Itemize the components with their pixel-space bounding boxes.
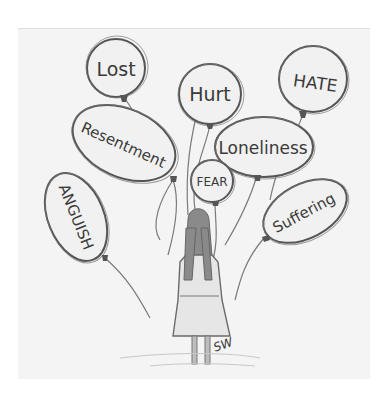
artist-signature: SW xyxy=(212,334,236,354)
balloon-hate: HATE xyxy=(279,46,349,118)
balloon-girl-drawing: Lost Hurt HATE Resentment Loneliness FEA… xyxy=(0,0,388,408)
balloon-lost: Lost xyxy=(86,36,148,102)
balloon-label: Hurt xyxy=(189,83,231,105)
balloon-anguish: ANGUISH xyxy=(33,164,122,273)
balloon-label: Loneliness xyxy=(218,138,307,158)
ground-sketch xyxy=(120,354,260,367)
balloon-label: Lost xyxy=(96,58,135,80)
balloon-hurt: Hurt xyxy=(178,64,244,129)
balloon-suffering: Suffering xyxy=(252,166,360,259)
balloon-fear: FEAR xyxy=(191,160,235,206)
balloon-label: FEAR xyxy=(196,175,227,189)
